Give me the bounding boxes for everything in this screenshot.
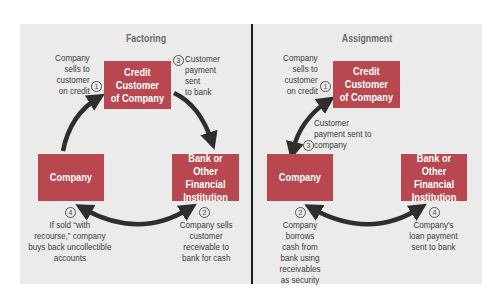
assign-company-label: Company	[279, 171, 321, 184]
assign-bank-box: Bank or Other Financial Institution	[401, 154, 467, 201]
assign-company-box: Company	[267, 154, 333, 201]
assign-step-2-label: Company borrows cash from bank using rec…	[270, 219, 330, 285]
credit-customer-label: Credit Customer of Company	[111, 66, 164, 105]
step-2-label: Company sells customer receivable to ban…	[170, 219, 242, 263]
factoring-title: Factoring	[102, 33, 190, 44]
assign-step-1-label: Company sells to customer on credit	[268, 52, 318, 96]
assignment-title: Assignment	[323, 33, 411, 44]
assign-step-4-label: Company's loan payment sent to bank	[400, 219, 468, 252]
assign-step-3-number: 3	[303, 140, 314, 151]
step-4-label: If sold “with recourse,” company buys ba…	[20, 219, 120, 263]
step-3-number: 3	[173, 55, 184, 66]
assign-step-3-label: Customer payment sent to company	[314, 117, 394, 150]
arrow-company-to-customer	[63, 98, 98, 151]
assign-step-2-number: 2	[295, 207, 306, 218]
assign-step-4-number: 4	[429, 207, 440, 218]
step-2-number: 2	[199, 207, 210, 218]
arrow-customer-to-bank	[174, 93, 212, 142]
assign-step-1-number: 1	[320, 81, 331, 92]
step-3-label: Customer payment sent to bank	[185, 53, 235, 97]
company-label: Company	[50, 171, 92, 184]
credit-customer-box: Credit Customer of Company	[104, 61, 171, 109]
assign-credit-customer-label: Credit Customer of Company	[340, 65, 393, 104]
bank-box: Bank or Other Financial Institution	[172, 154, 239, 201]
step-1-number: 1	[91, 81, 102, 92]
assign-bank-label: Bank or Other Financial Institution	[405, 152, 463, 204]
company-box: Company	[38, 154, 104, 201]
step-4-number: 4	[65, 207, 76, 218]
step-1-label: Company sells to customer on credit	[40, 52, 90, 96]
bank-label: Bank or Other Financial Institution	[176, 152, 235, 204]
assign-credit-customer-box: Credit Customer of Company	[333, 61, 400, 108]
